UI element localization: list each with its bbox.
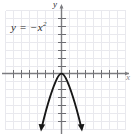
equation-base: y = −x [11, 21, 43, 33]
graph-figure: y = −x2 y x [0, 0, 134, 137]
y-axis-label: y [53, 0, 57, 9]
y-axis [60, 4, 64, 134]
equation-label: y = −x2 [11, 20, 47, 33]
curve-arrow-left [39, 124, 46, 132]
curve-arrow-right [78, 124, 85, 132]
x-axis-label: x [126, 72, 130, 82]
equation-exponent: 2 [43, 20, 47, 28]
